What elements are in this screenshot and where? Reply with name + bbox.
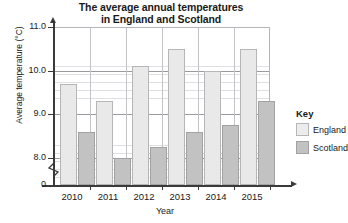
axis-break-icon: [48, 159, 60, 177]
chart-title-line-1: The average annual temperatures: [56, 2, 266, 14]
bar-scotland-2010: [78, 132, 95, 185]
y-tick-11: [48, 27, 54, 28]
bar-scotland-2014: [222, 125, 239, 185]
x-tick-label-2015: 2015: [232, 191, 272, 202]
bar-scotland-2015: [258, 101, 275, 185]
x-tick-2015: [270, 185, 271, 190]
bar-england-2012: [132, 66, 149, 185]
x-axis-title: Year: [120, 206, 210, 216]
chart-title-line-2: in England and Scotland: [56, 14, 266, 26]
x-axis-line: [42, 185, 292, 187]
bar-england-2014: [204, 71, 221, 185]
x-tick-2011: [126, 185, 127, 190]
y-axis-arrow: [50, 17, 56, 23]
y-tick-8: [48, 158, 54, 159]
legend-item-scotland: Scotland: [296, 141, 346, 154]
bar-england-2015: [240, 49, 257, 185]
y-tick-9: [48, 114, 54, 115]
x-tick-2013: [198, 185, 199, 190]
x-tick-label-2014: 2014: [196, 191, 236, 202]
x-tick-2012: [162, 185, 163, 190]
y-tick-label-0: 0: [6, 179, 46, 189]
y-tick-label-9: 9.0: [6, 108, 46, 118]
chart-title: The average annual temperatures in Engla…: [56, 2, 266, 25]
bar-england-2011: [96, 101, 113, 185]
legend-swatch-england: [296, 123, 309, 136]
y-tick-label-8: 8.0: [6, 152, 46, 162]
bar-scotland-2012: [150, 147, 167, 185]
legend-item-england: England: [296, 123, 346, 136]
legend: Key England Scotland: [296, 108, 346, 159]
bar-scotland-2011: [114, 158, 131, 185]
legend-label-scotland: Scotland: [313, 143, 348, 153]
x-axis-arrow: [291, 181, 297, 187]
x-tick-label-2010: 2010: [52, 191, 92, 202]
x-tick-label-2012: 2012: [124, 191, 164, 202]
y-tick-0: [48, 185, 54, 186]
x-tick-2010: [90, 185, 91, 190]
x-tick-2014: [234, 185, 235, 190]
y-tick-label-10: 10.0: [6, 65, 46, 75]
x-tick-label-2011: 2011: [88, 191, 128, 202]
plot-area: [54, 27, 270, 185]
bar-scotland-2013: [186, 132, 203, 185]
y-tick-10: [48, 71, 54, 72]
legend-label-england: England: [313, 125, 346, 135]
legend-swatch-scotland: [296, 141, 309, 154]
bar-england-2013: [168, 49, 185, 185]
legend-title: Key: [296, 108, 346, 119]
bar-england-2010: [60, 84, 77, 185]
x-tick-label-2013: 2013: [160, 191, 200, 202]
y-tick-label-11: 11.0: [6, 21, 46, 31]
